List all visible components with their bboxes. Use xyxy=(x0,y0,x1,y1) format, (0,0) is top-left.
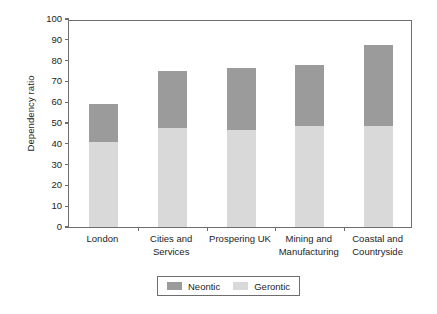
bar-segment-neontic xyxy=(364,45,393,126)
bar-group xyxy=(89,104,118,227)
y-tick-mark xyxy=(65,206,69,207)
y-tick-label: 90 xyxy=(51,33,62,46)
y-tick-label: 80 xyxy=(51,54,62,67)
legend-entry: Gerontic xyxy=(233,281,290,292)
y-tick-mark xyxy=(65,226,69,227)
y-tick-label: 40 xyxy=(51,137,62,150)
y-tick-label: 50 xyxy=(51,116,62,129)
y-tick-mark xyxy=(65,60,69,61)
x-axis-label: Prospering UK xyxy=(206,233,275,246)
legend-swatch-icon xyxy=(233,282,248,290)
x-axis-tick xyxy=(275,227,276,231)
chart-figure: Dependency ratio 1009080706050403020100 … xyxy=(0,0,437,314)
chart-legend: NeonticGerontic xyxy=(157,276,300,296)
bar-segment-gerontic xyxy=(158,128,187,227)
bar-segment-gerontic xyxy=(364,126,393,227)
x-axis-label-line: Cities and xyxy=(137,233,206,246)
y-tick-label: 0 xyxy=(57,220,62,233)
x-axis-tick xyxy=(207,227,208,231)
y-axis-title: Dependency ratio xyxy=(25,44,36,184)
x-axis-label-line: Manufacturing xyxy=(274,246,343,259)
legend-entry: Neontic xyxy=(167,281,220,292)
y-tick-mark xyxy=(65,39,69,40)
x-axis-label-line: Mining and xyxy=(274,233,343,246)
y-tick-mark xyxy=(65,143,69,144)
y-tick-label: 60 xyxy=(51,95,62,108)
x-axis-label: Coastal andCountryside xyxy=(343,233,412,258)
x-axis-label: Cities andServices xyxy=(137,233,206,258)
plot-area: 1009080706050403020100 xyxy=(68,20,412,228)
legend-label: Neontic xyxy=(188,281,220,292)
y-tick-label: 30 xyxy=(51,158,62,171)
y-tick-mark xyxy=(65,122,69,123)
bar-segment-neontic xyxy=(158,71,187,128)
y-tick-label: 20 xyxy=(51,178,62,191)
y-tick-mark xyxy=(65,185,69,186)
x-axis-label-line: Countryside xyxy=(343,246,412,259)
bar-segment-gerontic xyxy=(295,126,324,227)
y-tick-mark xyxy=(65,164,69,165)
bar-segment-neontic xyxy=(227,68,256,130)
bar-group xyxy=(295,65,324,227)
x-axis-label-line: Services xyxy=(137,246,206,259)
x-axis-label: Mining andManufacturing xyxy=(274,233,343,258)
y-tick-label: 70 xyxy=(51,74,62,87)
y-tick-mark xyxy=(65,102,69,103)
bar-segment-gerontic xyxy=(89,142,118,227)
x-axis-tick xyxy=(138,227,139,231)
x-axis-label-line: London xyxy=(68,233,137,246)
x-axis-label-line: Coastal and xyxy=(343,233,412,246)
bar-group xyxy=(158,71,187,227)
y-tick-label: 10 xyxy=(51,199,62,212)
y-tick-label: 100 xyxy=(46,12,62,25)
legend-label: Gerontic xyxy=(254,281,290,292)
legend-swatch-icon xyxy=(167,282,182,290)
x-axis-label: London xyxy=(68,233,137,246)
y-tick-mark xyxy=(65,18,69,19)
bar-group xyxy=(227,68,256,227)
bar-segment-neontic xyxy=(89,104,118,141)
bar-segment-neontic xyxy=(295,65,324,126)
x-axis-tick xyxy=(344,227,345,231)
bar-segment-gerontic xyxy=(227,130,256,227)
y-tick-mark xyxy=(65,81,69,82)
x-axis-label-line: Prospering UK xyxy=(206,233,275,246)
bar-group xyxy=(364,45,393,227)
